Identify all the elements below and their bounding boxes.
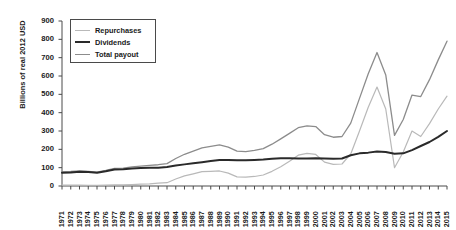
legend-swatch-icon: [75, 41, 90, 43]
x-axis-tick-label: 1998: [294, 211, 301, 227]
x-axis-tick-label: 1978: [119, 211, 126, 227]
y-axis-tick-label: 0: [28, 182, 54, 190]
legend-item: Dividends: [75, 36, 155, 48]
legend-swatch-icon: [75, 54, 90, 55]
x-axis-tick-label: 2013: [425, 211, 432, 227]
legend-item: Total payout: [75, 48, 155, 60]
x-axis-tick-label: 1982: [154, 211, 161, 227]
x-axis-tick-label: 2012: [417, 211, 424, 227]
x-axis-tick-label: 1997: [285, 211, 292, 227]
x-axis-tick-label: 1981: [145, 211, 152, 227]
x-axis-tick-label: 1973: [75, 211, 82, 227]
x-axis-tick-label: 1972: [67, 211, 74, 227]
x-axis-tick-label: 1985: [180, 211, 187, 227]
x-axis-tick-label: 2002: [329, 211, 336, 227]
x-axis-tick-label: 1994: [259, 211, 266, 227]
y-axis-tick-label: 800: [28, 35, 54, 43]
legend-swatch-icon: [75, 30, 90, 31]
x-axis-tick-label: 1986: [189, 211, 196, 227]
y-axis-tick-label: 900: [28, 17, 54, 25]
y-axis-tick-label: 200: [28, 145, 54, 153]
x-axis-tick-label: 1992: [242, 211, 249, 227]
x-axis-tick-label: 1980: [137, 211, 144, 227]
x-axis-tick-label: 1988: [207, 211, 214, 227]
x-axis-tick-label: 1996: [277, 211, 284, 227]
y-axis-tick-label: 400: [28, 109, 54, 117]
x-axis-tick-label: 1984: [172, 211, 179, 227]
x-axis-tick-label: 2001: [320, 211, 327, 227]
x-axis-tick-label: 2006: [364, 211, 371, 227]
x-axis-tick-label: 1989: [215, 211, 222, 227]
x-axis-tick-label: 1971: [58, 211, 65, 227]
x-axis-tick-label: 1991: [233, 211, 240, 227]
x-axis-tick-label: 1993: [250, 211, 257, 227]
x-axis-tick-label: 2007: [373, 211, 380, 227]
x-axis-tick-label: 2008: [382, 211, 389, 227]
legend-item-label: Dividends: [95, 38, 130, 47]
legend-item-label: Total payout: [95, 50, 138, 59]
y-axis-tick-label: 300: [28, 127, 54, 135]
x-axis-tick-label: 1990: [224, 211, 231, 227]
x-axis-tick-label: 1983: [163, 211, 170, 227]
y-axis-tick-label: 100: [28, 164, 54, 172]
x-axis-tick-label: 1977: [110, 211, 117, 227]
plot-area: [0, 0, 456, 230]
x-axis-tick-label: 2011: [408, 211, 415, 227]
x-axis-tick-label: 2000: [312, 211, 319, 227]
legend-item: Repurchases: [75, 24, 155, 36]
y-axis-title: Billions of real 2012 USD: [18, 0, 27, 145]
x-axis-tick-label: 1995: [268, 211, 275, 227]
y-axis-tick-label: 700: [28, 54, 54, 62]
x-axis-tick-label: 2014: [434, 211, 441, 227]
x-axis-tick-label: 1999: [303, 211, 310, 227]
x-axis-tick-label: 2005: [355, 211, 362, 227]
payout-line-chart: Billions of real 2012 USD 01002003004005…: [0, 0, 456, 230]
x-axis-tick-label: 1975: [93, 211, 100, 227]
x-axis-tick-label: 2004: [347, 211, 354, 227]
series-line-dividends: [62, 131, 447, 173]
x-axis-tick-label: 1979: [128, 211, 135, 227]
x-axis-tick-label: 2010: [399, 211, 406, 227]
y-axis-tick-label: 500: [28, 90, 54, 98]
y-axis-tick-label: 600: [28, 72, 54, 80]
legend-item-label: Repurchases: [95, 26, 141, 35]
x-axis-tick-label: 1976: [102, 211, 109, 227]
x-axis-tick-label: 1987: [198, 211, 205, 227]
x-axis-tick-label: 2015: [443, 211, 450, 227]
x-axis-tick-label: 1974: [84, 211, 91, 227]
chart-legend: RepurchasesDividendsTotal payout: [70, 19, 156, 63]
x-axis-tick-label: 2009: [390, 211, 397, 227]
x-axis-tick-label: 2003: [338, 211, 345, 227]
